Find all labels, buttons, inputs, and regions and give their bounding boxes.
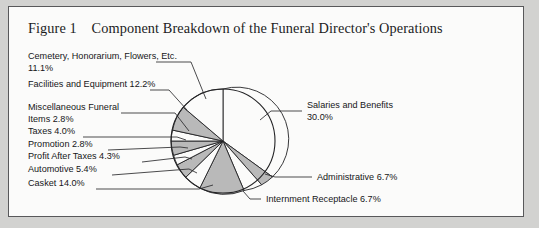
label-administrative: Administrative 6.7% <box>317 172 397 182</box>
label-profit: Profit After Taxes 4.3% <box>28 151 120 161</box>
label-salaries-1: Salaries and Benefits <box>307 100 393 110</box>
label-facilities: Facilities and Equipment 12.2% <box>28 79 155 89</box>
label-cemetery: Cemetery, Honorarium, Flowers, Etc. <box>28 51 177 61</box>
leader-facilities <box>150 90 187 110</box>
label-salaries-2: 30.0% <box>307 112 333 122</box>
label-internment: Internment Receptacle 6.7% <box>266 194 381 204</box>
label-casket: Casket 14.0% <box>28 178 85 188</box>
label-miscellaneous-2: Items 2.8% <box>28 114 74 124</box>
figure-card: Figure 1 Component Breakdown of the Fune… <box>8 6 524 217</box>
leader-internment <box>243 191 261 199</box>
label-taxes: Taxes 4.0% <box>28 126 75 136</box>
label-miscellaneous-1: Miscellaneous Funeral <box>28 102 119 112</box>
pie-slices <box>171 87 289 194</box>
label-cemetery-value: 11.1% <box>28 63 53 73</box>
label-automotive: Automotive 5.4% <box>28 164 97 174</box>
label-promotion: Promotion 2.8% <box>28 139 93 149</box>
pie-chart: Cemetery, Honorarium, Flowers, Etc. 11.1… <box>9 7 525 218</box>
leader-cemetery <box>156 62 206 99</box>
